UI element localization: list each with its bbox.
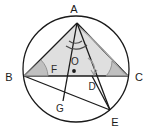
point-label-f: F: [51, 64, 57, 75]
geometry-canvas: A B C D E F G O: [0, 0, 151, 139]
point-label-e: E: [111, 116, 118, 128]
point-label-g: G: [56, 103, 64, 114]
geometry-figure: A B C D E F G O: [0, 0, 151, 139]
point-label-d: D: [88, 81, 95, 92]
point-label-c: C: [135, 71, 143, 83]
center-point-dot: [72, 69, 76, 73]
point-label-b: B: [5, 71, 12, 83]
point-label-o: O: [71, 56, 79, 67]
point-label-a: A: [70, 3, 78, 15]
